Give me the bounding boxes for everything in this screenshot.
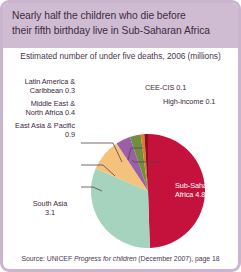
source-suffix: (December 2007), page 18 — [136, 255, 219, 262]
pie-label-sub-saharan-africa: Sub-Saharan Africa 4.8 — [175, 181, 217, 199]
pie-label-sub-saharan-africa-line2: Africa 4.8 — [175, 190, 217, 199]
pie-label-latin-america: Latin America & Caribbean 0.3 — [25, 77, 75, 95]
pie-label-high-income: High-income 0.1 — [163, 97, 215, 106]
chart-title-bar: Nearly half the children who die before … — [3, 3, 238, 48]
page-title-line1: Nearly half the children who die before — [12, 9, 229, 24]
pie-label-latin-america-line1: Latin America & — [25, 77, 75, 86]
pie-label-south-asia-line1: South Asia — [25, 199, 75, 208]
chart-subtitle: Estimated number of under five deaths, 2… — [3, 51, 238, 61]
page-title-line2: their fifth birthday live in Sub-Saharan… — [12, 24, 229, 39]
pie-label-middle-east-line2: North Africa 0.4 — [26, 108, 76, 117]
pie-label-cee-cis: CEE-CIS 0.1 — [145, 83, 186, 92]
pie-label-middle-east: Middle East & North Africa 0.4 — [26, 99, 76, 117]
pie-label-middle-east-line1: Middle East & — [26, 99, 76, 108]
pie-label-south-asia: South Asia 3.1 — [25, 199, 75, 217]
pie-label-east-asia-line1: East Asia & Pacific — [15, 121, 75, 130]
pie-label-east-asia: East Asia & Pacific 0.9 — [15, 121, 75, 139]
pie-label-latin-america-line2: Caribbean 0.3 — [25, 86, 75, 95]
chart-card: Nearly half the children who die before … — [0, 0, 241, 272]
pie-label-east-asia-line2: 0.9 — [15, 130, 75, 139]
source-prefix: Source: UNICEF — [21, 255, 73, 262]
pie-label-sub-saharan-africa-line1: Sub-Saharan — [175, 181, 217, 190]
pie-label-south-asia-line2: 3.1 — [25, 208, 75, 217]
source-title: Progress for children — [74, 255, 137, 262]
source-note: Source: UNICEF Progress for children (De… — [3, 255, 238, 262]
